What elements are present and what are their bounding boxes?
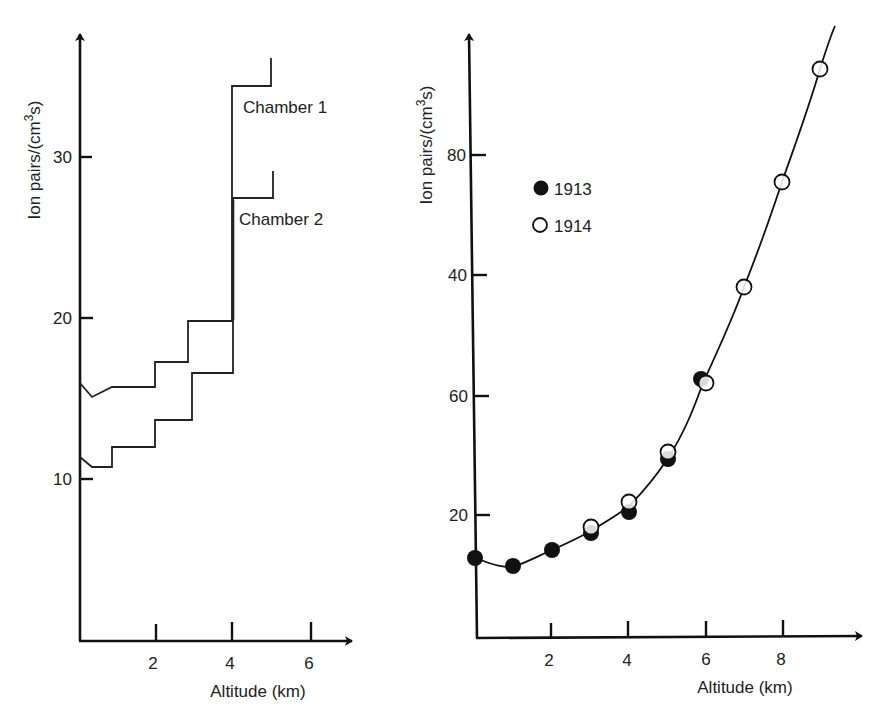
legend-1913-marker [534, 181, 549, 196]
legend-1914-marker [533, 218, 547, 232]
right-xtick-6: 6 [701, 650, 710, 669]
left-xtick-2: 2 [148, 654, 157, 673]
fit-curve [475, 26, 835, 567]
right-ytick-80: 80 [447, 146, 466, 165]
series-1913-points [467, 371, 709, 574]
left-x-ticks [156, 622, 311, 641]
left-ytick-10: 10 [53, 470, 72, 489]
left-ytick-30: 30 [53, 148, 72, 167]
legend-1914-label: 1914 [554, 217, 592, 236]
right-x-axis [476, 636, 862, 638]
right-xtick-8: 8 [776, 650, 785, 669]
series-1914-points [584, 62, 828, 535]
right-xtick-2: 2 [544, 651, 553, 670]
right-xtick-4: 4 [622, 651, 631, 670]
right-ytick-60: 60 [449, 387, 468, 406]
left-ytick-20: 20 [53, 309, 72, 328]
right-y-axis-title: Ion pairs/(cm3s) [414, 85, 436, 204]
right-ytick-20: 20 [449, 506, 468, 525]
right-ytick-40: 40 [448, 266, 467, 285]
chamber-1-label: Chamber 1 [243, 98, 327, 117]
figure: 10 20 30 2 4 6 Altitude (km) Ion pairs/(… [0, 0, 890, 728]
right-chart: 80 40 60 20 2 4 6 8 Altitude (km) Ion pa… [414, 26, 862, 697]
left-xtick-4: 4 [225, 654, 234, 673]
left-y-axis-title: Ion pairs/(cm3s) [22, 100, 44, 219]
left-chart: 10 20 30 2 4 6 Altitude (km) Ion pairs/(… [22, 34, 352, 701]
chamber-2-label: Chamber 2 [239, 210, 323, 229]
left-xtick-6: 6 [304, 654, 313, 673]
legend-1913-label: 1913 [554, 180, 592, 199]
right-x-axis-title: Altitude (km) [697, 678, 792, 697]
left-x-axis-title: Altitude (km) [210, 682, 305, 701]
right-y-axis [469, 34, 477, 638]
left-y-ticks [80, 157, 93, 479]
